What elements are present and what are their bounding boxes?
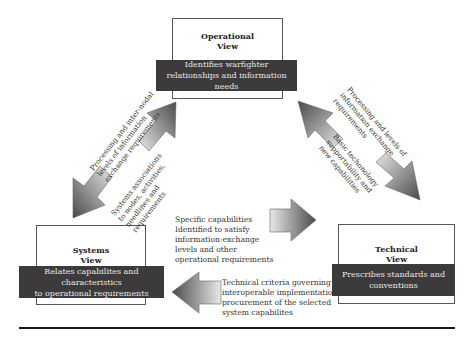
operational-view-title: Operational View (173, 31, 282, 51)
technical-view-title: Technical View (339, 244, 454, 264)
technical-view-description: Prescribes standards and conventions (332, 264, 455, 296)
bottom-rule (19, 327, 455, 329)
operational-view-description: Identifies warfighter relationships and … (156, 60, 297, 91)
label-technical-to-systems: Technical criteria governing interoperab… (222, 278, 340, 318)
arrow-technical-to-systems (172, 272, 221, 313)
systems-view-description: Relates capabilites and characteristics … (19, 266, 164, 298)
arrow-systems-to-technical (270, 199, 316, 241)
label-systems-to-technical: Specific capabilities Identified to sati… (175, 215, 273, 265)
systems-view-title: Systems View (37, 245, 145, 265)
